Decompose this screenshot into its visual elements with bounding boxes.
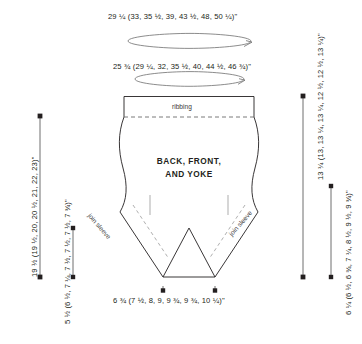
- top-width-measurement: 29 ¼ (33, 35 ½, 39, 43 ½, 48, 50 ¼)": [108, 13, 237, 21]
- right-outer-height-measurement: 13 ¼ (13, 13 ¼, 13 ¼, 12 ½, 12 ½, 13 ¼)": [317, 33, 325, 180]
- bottom-width-measurement: 6 ¾ (7 ½, 8, 9, 9 ¾, 9 ¾, 10 ¼)": [113, 297, 225, 305]
- leader-lines: [150, 195, 228, 215]
- schematic-diagram: 29 ¼ (33, 35 ½, 39, 43 ½, 48, 50 ¼)" 25 …: [0, 0, 362, 344]
- left-inner-height-measurement: 5 ½ (6 ½, 7 ¼, 7 ½, 7 ½, 7 ½, 7 ¾)": [64, 199, 72, 324]
- dimension-bottom-width: [161, 286, 217, 293]
- left-outer-height-measurement: 19 ½ (19 ½, 20, 20 ½, 21, 22, 23)": [31, 156, 39, 277]
- garment-section-title-line1: BACK, FRONT,: [157, 156, 222, 166]
- upper-width-measurement: 25 ¾ (29 ¼, 32, 35 ½, 40, 44 ½, 46 ¾)": [113, 63, 251, 71]
- top-circumference-ellipse: [128, 33, 252, 48]
- dimension-right-inner: [329, 184, 333, 279]
- dimension-right-outer: [301, 94, 306, 280]
- construction-dashed-lines: [124, 117, 254, 259]
- upper-circumference-ellipse: [135, 72, 245, 87]
- garment-section-title: BACK, FRONT,AND YOKE: [144, 155, 234, 181]
- ribbing-label: ribbing: [172, 103, 192, 110]
- garment-section-title-line2: AND YOKE: [165, 169, 213, 179]
- right-inner-height-measurement: 6 ¼ (6 ½, 6 ¾, 7 ¼, 8 ½, 9 ½, 9 ¾)": [345, 190, 353, 315]
- garment-outline: [119, 97, 258, 278]
